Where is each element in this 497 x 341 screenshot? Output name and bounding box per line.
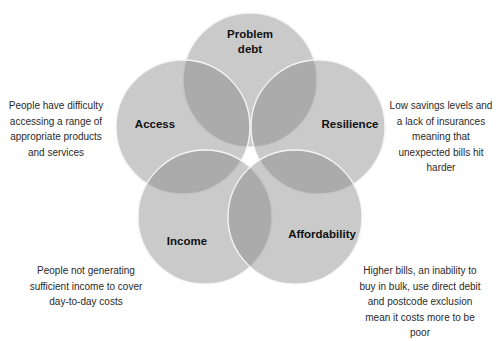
description-affordability: Higher bills, an inability to buy in bul… xyxy=(356,263,484,341)
label-resilience: Resilience xyxy=(322,117,379,132)
description-income: People not generating sufficient income … xyxy=(27,263,145,310)
label-affordability: Affordability xyxy=(288,227,356,242)
description-access: People have difficulty accessing a range… xyxy=(2,98,110,160)
label-access: Access xyxy=(135,117,175,132)
description-resilience: Low savings levels and a lack of insuran… xyxy=(389,98,493,176)
label-income: Income xyxy=(167,234,207,249)
label-problem-debt: Problem debt xyxy=(227,27,273,57)
circle-affordability xyxy=(228,150,362,284)
